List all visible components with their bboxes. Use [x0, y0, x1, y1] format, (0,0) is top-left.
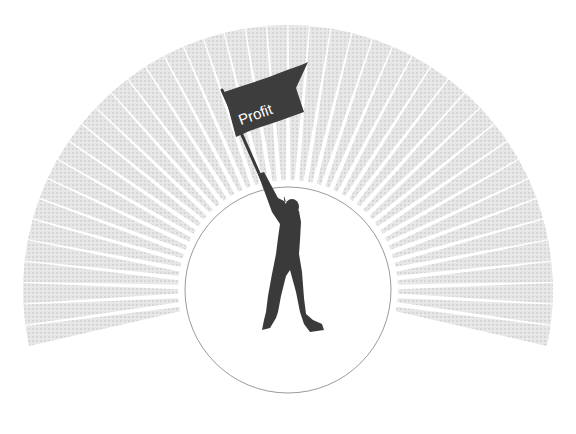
profit-illustration: Profit	[0, 0, 576, 434]
